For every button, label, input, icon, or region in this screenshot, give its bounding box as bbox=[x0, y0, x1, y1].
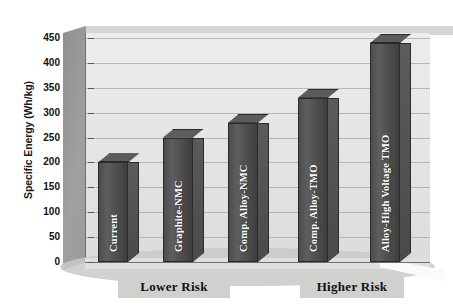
y-tick-mark bbox=[88, 162, 94, 163]
y-tick-label: 0 bbox=[26, 257, 60, 267]
bar-side-face bbox=[328, 98, 339, 262]
bar[interactable]: Current bbox=[98, 162, 128, 262]
y-tick-mark bbox=[88, 212, 94, 213]
y-tick-mark bbox=[88, 38, 94, 39]
bar-label: Current bbox=[108, 214, 119, 252]
bar-side-face bbox=[400, 43, 411, 262]
bar-label: Comp. Alloy-TMO bbox=[308, 164, 319, 252]
bar[interactable]: Graphite-NMC bbox=[163, 138, 193, 262]
bar-label: Alloy-High Voltage TMO bbox=[380, 135, 391, 252]
y-axis-ticks: 450400350300250200150100500 bbox=[26, 0, 60, 307]
y-tick-mark bbox=[88, 63, 94, 64]
y-tick-label: 300 bbox=[26, 108, 60, 118]
y-axis-line bbox=[85, 33, 86, 263]
y-tick-label: 150 bbox=[26, 182, 60, 192]
bar[interactable]: Comp. Alloy-TMO bbox=[298, 98, 328, 262]
y-tick-mark bbox=[88, 262, 94, 263]
y-tick-mark bbox=[88, 138, 94, 139]
bar-side-face bbox=[128, 162, 139, 262]
y-tick-mark bbox=[88, 237, 94, 238]
y-tick-label: 400 bbox=[26, 58, 60, 68]
y-tick-label: 200 bbox=[26, 157, 60, 167]
y-tick-label: 350 bbox=[26, 83, 60, 93]
x-axis-line bbox=[85, 262, 430, 263]
bar-label: Comp. Alloy-NMC bbox=[238, 164, 249, 252]
y-tick-mark bbox=[88, 187, 94, 188]
group-label-higher-risk: Higher Risk bbox=[300, 277, 404, 298]
y-tick-mark bbox=[88, 88, 94, 89]
bar-side-face bbox=[258, 123, 269, 262]
y-tick-mark bbox=[88, 113, 94, 114]
y-tick-label: 50 bbox=[26, 232, 60, 242]
bar[interactable]: Alloy-High Voltage TMO bbox=[370, 43, 400, 262]
bar-label: Graphite-NMC bbox=[173, 180, 184, 252]
bar[interactable]: Comp. Alloy-NMC bbox=[228, 123, 258, 262]
y-tick-label: 450 bbox=[26, 33, 60, 43]
y-tick-label: 250 bbox=[26, 133, 60, 143]
group-label-lower-risk: Lower Risk bbox=[118, 277, 230, 298]
y-tick-label: 100 bbox=[26, 207, 60, 217]
bar-side-face bbox=[193, 138, 204, 262]
plot-left-wall bbox=[63, 26, 86, 270]
